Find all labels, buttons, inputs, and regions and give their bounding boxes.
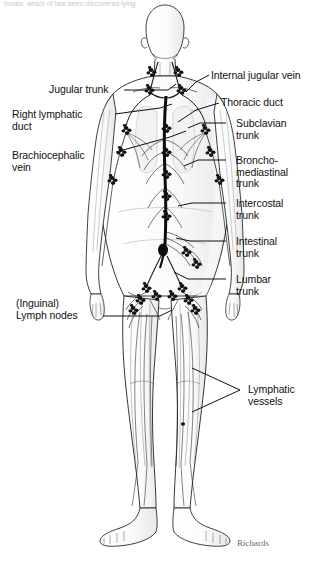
artist-signature: Richards bbox=[237, 538, 269, 548]
label-inguinal-lymph-nodes: (Inguinal) Lymph nodes bbox=[16, 298, 78, 321]
label-brachiocephalic-vein: Brachiocephalic vein bbox=[12, 150, 85, 173]
label-internal-jugular-vein: Internal jugular vein bbox=[211, 70, 301, 82]
label-thoracic-duct: Thoracic duct bbox=[221, 97, 283, 109]
label-intercostal-trunk: Intercostal trunk bbox=[236, 198, 283, 221]
label-intestinal-trunk: Intestinal trunk bbox=[236, 236, 277, 259]
label-right-lymphatic-duct: Right lymphatic duct bbox=[12, 109, 82, 132]
legs bbox=[100, 296, 230, 546]
label-lymphatic-vessels: Lymphatic vessels bbox=[248, 384, 295, 407]
label-subclavian-trunk: Subclavian trunk bbox=[236, 118, 286, 141]
label-lumbar-trunk: Lumbar trunk bbox=[236, 274, 271, 297]
label-jugular-trunk: Jugular trunk bbox=[49, 84, 108, 96]
label-broncho-mediastinal-trunk: Broncho- mediastinal trunk bbox=[236, 155, 288, 190]
